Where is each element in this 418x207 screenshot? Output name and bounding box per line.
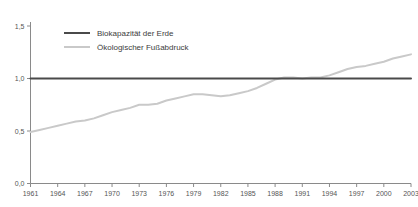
x-tick-label: 1988 (267, 190, 283, 197)
y-tick-label: 1,0 (15, 75, 25, 82)
legend-label: Ökologischer Fußabdruck (97, 43, 190, 52)
x-tick-label: 1970 (104, 190, 120, 197)
x-tick-label: 2000 (376, 190, 392, 197)
y-axis-ticks: 0,00,51,01,5 (15, 23, 31, 188)
x-tick-label: 2003 (403, 190, 418, 197)
x-tick-label: 1976 (159, 190, 175, 197)
x-tick-label: 1982 (213, 190, 229, 197)
y-tick-label: 1,5 (15, 23, 25, 30)
x-tick-label: 1985 (240, 190, 256, 197)
chart-legend: Biokapazität der ErdeÖkologischer Fußabd… (64, 29, 190, 52)
x-tick-label: 1964 (50, 190, 66, 197)
x-tick-label: 1979 (186, 190, 202, 197)
y-tick-label: 0,5 (15, 128, 25, 135)
legend-label: Biokapazität der Erde (97, 29, 174, 38)
x-tick-label: 1997 (349, 190, 365, 197)
series-group (31, 54, 412, 132)
x-tick-label: 1961 (23, 190, 39, 197)
x-tick-label: 1994 (322, 190, 338, 197)
x-axis-ticks: 1961196419671970197319761979198219851988… (23, 184, 418, 198)
x-tick-label: 1973 (131, 190, 147, 197)
x-tick-label: 1991 (294, 190, 310, 197)
series-line (31, 54, 412, 132)
line-chart: 0,00,51,01,5 196119641967197019731976197… (0, 0, 418, 207)
x-tick-label: 1967 (77, 190, 93, 197)
chart-canvas: 0,00,51,01,5 196119641967197019731976197… (0, 0, 418, 207)
y-tick-label: 0,0 (15, 180, 25, 187)
